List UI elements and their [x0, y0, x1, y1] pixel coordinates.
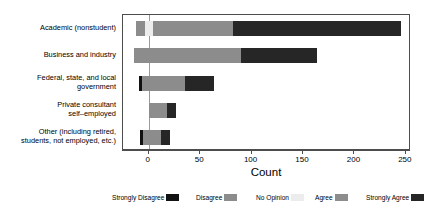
y-axis-labels: Academic (nonstudent) Business and indus…: [0, 14, 119, 150]
bar-segment-no-opinion: [145, 21, 153, 36]
bar-segment-agree: [149, 76, 185, 91]
y-axis-label-business: Business and industry: [44, 50, 116, 59]
bar-segment-disagree: [136, 21, 144, 36]
legend-item-no-opinion: No Opinion: [256, 191, 304, 203]
x-axis-tick-label: 250: [398, 155, 411, 164]
x-axis-title: Count: [122, 166, 410, 178]
x-axis-tick: [353, 150, 354, 154]
x-axis-tick-label: 50: [195, 155, 204, 164]
x-axis-tick: [148, 150, 149, 154]
legend-item-disagree: Disagree: [196, 191, 237, 203]
bar-segment-agree: [153, 21, 233, 36]
bar-row: [123, 21, 409, 36]
bar-segment-agree: [149, 103, 168, 118]
legend-item-agree: Agree: [315, 191, 348, 203]
bar-segment-strongly-agree: [161, 130, 170, 145]
bar-segment-strongly-agree: [233, 21, 401, 36]
legend-item-strongly-disagree: Strongly Disagree: [112, 191, 179, 203]
legend-swatch: [224, 194, 237, 201]
plot-panel: [122, 14, 410, 150]
legend-swatch: [166, 194, 179, 201]
bar-row: [123, 48, 409, 63]
x-axis-tick: [405, 150, 406, 154]
bar-row: [123, 103, 409, 118]
legend: Strongly DisagreeDisagreeNo OpinionAgree…: [0, 191, 434, 205]
x-axis-tick-label: 150: [295, 155, 308, 164]
bar-segment-strongly-agree: [185, 76, 214, 91]
bar-row: [123, 76, 409, 91]
x-axis-tick-label: 0: [145, 155, 149, 164]
y-axis-label-academic: Academic (nonstudent): [40, 23, 116, 32]
legend-swatch: [335, 194, 348, 201]
x-axis-tick: [251, 150, 252, 154]
bar-segment-strongly-agree: [241, 48, 317, 63]
legend-label: Strongly Disagree: [112, 194, 164, 201]
y-axis-label-other: Other (including retired, students, not …: [21, 127, 116, 145]
x-axis-tick-label: 100: [244, 155, 257, 164]
bar-segment-disagree: [142, 76, 149, 91]
bar-row: [123, 130, 409, 145]
legend-label: No Opinion: [256, 194, 289, 201]
legend-label: Disagree: [196, 194, 222, 201]
x-axis-tick: [199, 150, 200, 154]
plot-area: [123, 15, 409, 149]
x-axis-line: [122, 150, 410, 151]
legend-swatch: [411, 194, 424, 201]
bar-segment-agree: [143, 130, 162, 145]
x-axis-tick: [302, 150, 303, 154]
likert-bar-chart: Academic (nonstudent) Business and indus…: [0, 0, 434, 213]
legend-label: Agree: [315, 194, 333, 201]
x-axis-tick-label: 200: [347, 155, 360, 164]
legend-label: Strongly Agree: [366, 194, 409, 201]
bar-segment-disagree: [134, 48, 148, 63]
y-axis-label-government: Federal, state, and local government: [37, 73, 116, 91]
legend-item-strongly-agree: Strongly Agree: [366, 191, 424, 203]
bar-segment-strongly-agree: [167, 103, 176, 118]
bar-segment-agree: [149, 48, 242, 63]
legend-swatch: [291, 194, 304, 201]
y-axis-label-consultant: Private consultant self–employed: [57, 100, 116, 118]
